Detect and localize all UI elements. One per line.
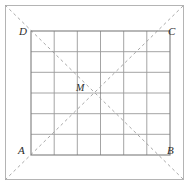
vertex-label-c: C bbox=[168, 26, 175, 37]
center-point-dot bbox=[100, 92, 101, 93]
figure-canvas bbox=[0, 0, 191, 187]
vertex-label-b: B bbox=[167, 145, 174, 156]
geometry-figure: D C A B M bbox=[0, 0, 191, 187]
vertex-label-a: A bbox=[18, 145, 25, 156]
center-point-marker bbox=[100, 92, 101, 93]
vertex-label-d: D bbox=[19, 26, 27, 37]
vertex-label-m: M bbox=[76, 83, 84, 93]
